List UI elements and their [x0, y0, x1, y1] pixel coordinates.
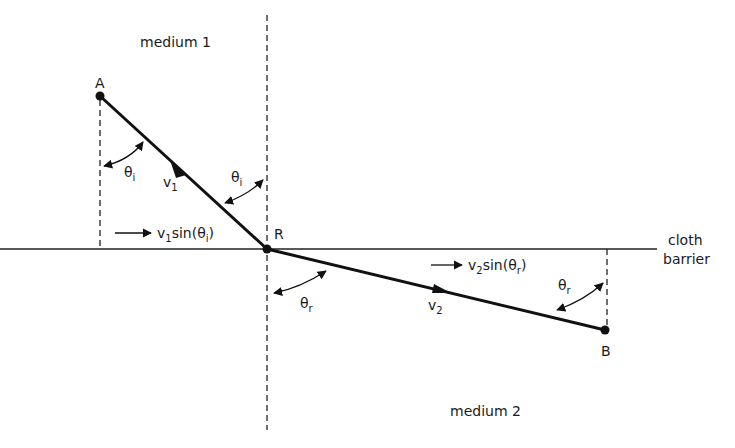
theta-i-arc-at-a [104, 142, 143, 166]
point-r [263, 245, 272, 254]
refraction-diagram: medium 1 medium 2 cloth barrier A R B v1… [0, 0, 735, 448]
theta-i-label-a: θi [124, 164, 135, 183]
theta-r-label-r: θr [300, 295, 314, 314]
point-a-label: A [95, 75, 105, 91]
v1-label: v1 [163, 174, 178, 193]
component-1-label: v1sin(θi) [157, 225, 214, 244]
theta-i-label-r: θi [231, 169, 242, 188]
medium-1-label: medium 1 [140, 34, 211, 50]
component-2-label: v2sin(θr) [468, 257, 526, 276]
theta-r-arc-at-r [274, 271, 326, 293]
v2-label: v2 [428, 297, 443, 316]
point-b [601, 326, 610, 335]
v2-direction-arrow-icon [432, 284, 451, 293]
barrier-label-line1: cloth [668, 232, 703, 248]
point-r-label: R [274, 226, 284, 242]
theta-r-label-b: θr [558, 277, 572, 296]
medium-2-label: medium 2 [450, 403, 521, 419]
point-b-label: B [601, 343, 611, 359]
point-a [96, 92, 105, 101]
barrier-label-line2: barrier [663, 251, 710, 267]
v1-direction-arrow-icon [170, 160, 186, 178]
